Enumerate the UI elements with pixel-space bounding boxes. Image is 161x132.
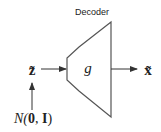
prior-distribution-label: N(0, I) bbox=[13, 111, 52, 127]
decoder-diagram: Decoder g z̃ x̃ N(0, I) bbox=[0, 0, 161, 132]
prior-mean: 0 bbox=[28, 111, 35, 126]
reconstruction-output-label: x̃ bbox=[144, 62, 152, 78]
decoder-function-label: g bbox=[84, 60, 92, 76]
decoder-title: Decoder bbox=[75, 7, 109, 17]
prior-separator: , bbox=[35, 111, 42, 126]
diagram-svg: Decoder g z̃ x̃ N(0, I) bbox=[0, 0, 161, 132]
prior-prefix: N( bbox=[13, 111, 29, 127]
latent-input-label: z̃ bbox=[29, 62, 36, 78]
prior-suffix: ) bbox=[47, 111, 52, 127]
